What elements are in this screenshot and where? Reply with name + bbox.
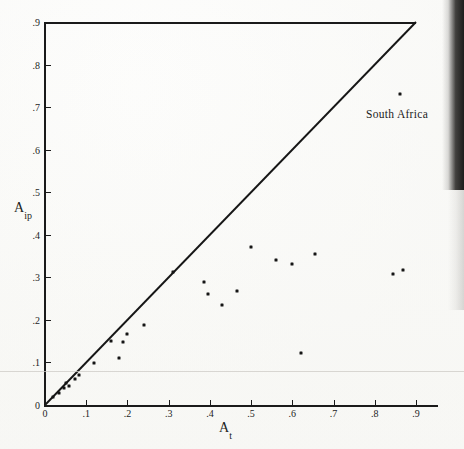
y-tick-mark	[46, 405, 51, 406]
y-tick-mark	[46, 320, 51, 321]
y-tick-mark	[46, 235, 51, 236]
x-axis-line	[44, 405, 438, 407]
y-tick-mark	[46, 150, 51, 151]
y-tick-mark	[46, 362, 51, 363]
data-point	[93, 362, 96, 365]
data-point	[171, 271, 174, 274]
scatter-plot-figure: 0.1.2.3.4.5.6.7.8.90.1.2.3.4.5.6.7.8.9 A…	[0, 0, 464, 449]
data-point	[221, 303, 224, 306]
y-tick-label: .2	[20, 314, 40, 325]
x-tick-label: .5	[247, 408, 255, 419]
data-point	[73, 377, 76, 380]
data-point	[291, 262, 294, 265]
y-tick-label: .3	[20, 272, 40, 283]
x-tick-mark	[375, 400, 376, 405]
y-tick-label: .6	[20, 144, 40, 155]
x-tick-label: .8	[371, 408, 379, 419]
x-tick-mark	[169, 400, 170, 405]
x-tick-mark	[251, 400, 252, 405]
data-point	[274, 259, 277, 262]
x-tick-mark	[210, 400, 211, 405]
x-axis-label-subscript: t	[229, 430, 232, 441]
x-axis-label-base: A	[219, 420, 229, 435]
scan-artifact-edge-lower	[448, 190, 464, 310]
scan-artifact-edge	[442, 0, 464, 190]
y-tick-label: .1	[20, 357, 40, 368]
y-tick-label: .5	[20, 187, 40, 198]
data-point	[118, 357, 121, 360]
y-tick-mark	[46, 192, 51, 193]
data-point	[57, 392, 60, 395]
data-point	[401, 268, 404, 271]
data-point	[122, 341, 125, 344]
x-tick-label: 0	[43, 408, 48, 419]
y-tick-label: .7	[20, 102, 40, 113]
x-tick-mark	[127, 400, 128, 405]
y-tick-label: .9	[20, 17, 40, 28]
data-point	[250, 245, 253, 248]
x-tick-label: .3	[165, 408, 173, 419]
data-point-labeled	[398, 93, 401, 96]
y-tick-label: 0	[20, 400, 40, 411]
data-point	[78, 374, 81, 377]
data-point	[142, 323, 145, 326]
x-axis-label: At	[219, 420, 232, 438]
data-point	[67, 385, 70, 388]
data-point	[299, 352, 302, 355]
x-tick-label: .9	[412, 408, 420, 419]
x-tick-label: .6	[289, 408, 297, 419]
data-point	[52, 396, 55, 399]
y-tick-mark	[46, 277, 51, 278]
y-tick-label: .8	[20, 59, 40, 70]
y-tick-mark	[46, 65, 51, 66]
y-tick-label: .4	[20, 229, 40, 240]
data-point	[202, 280, 205, 283]
x-tick-label: .4	[206, 408, 214, 419]
x-tick-mark	[292, 400, 293, 405]
y-axis-label-subscript: ip	[24, 210, 32, 221]
plot-frame	[44, 22, 416, 406]
x-tick-label: .2	[124, 408, 132, 419]
y-axis-label: Aip	[14, 200, 32, 218]
data-point	[392, 272, 395, 275]
x-tick-mark	[416, 400, 417, 405]
y-tick-mark	[46, 107, 51, 108]
x-tick-label: .1	[82, 408, 90, 419]
data-point	[314, 252, 317, 255]
x-tick-mark	[86, 400, 87, 405]
x-tick-mark	[334, 400, 335, 405]
annotation-south-africa: South Africa	[366, 108, 428, 120]
data-point	[109, 340, 112, 343]
y-axis-label-base: A	[14, 200, 24, 215]
x-tick-label: .7	[330, 408, 338, 419]
y-tick-mark	[46, 22, 51, 23]
data-point	[206, 292, 209, 295]
data-point	[126, 332, 129, 335]
data-point	[62, 386, 65, 389]
data-point	[235, 289, 238, 292]
